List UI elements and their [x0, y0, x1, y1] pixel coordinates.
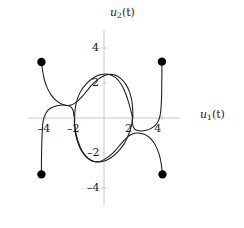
x-tick-label-3: 4: [154, 122, 161, 135]
curve-trajectory-lower-left: [41, 105, 74, 174]
x-tick-label-1: –2: [67, 122, 80, 135]
x-tick-label-2: 2: [125, 122, 132, 135]
curve-trajectory-upper-left: [41, 62, 132, 117]
initial-condition-lower-right-marker: [158, 170, 166, 178]
y-axis-label-arg: (t): [122, 6, 135, 19]
initial-condition-upper-left-marker: [37, 58, 45, 66]
axis-layer: [28, 31, 179, 206]
y-tick-label-2: –2: [87, 146, 100, 159]
y-tick-label-3: –4: [87, 181, 100, 194]
x-axis-label: u1(t): [200, 108, 225, 122]
initial-condition-lower-left-marker: [37, 170, 45, 178]
phase-portrait-figure: –4–22442–2–4 u2(t) u1(t): [0, 0, 244, 228]
y-tick-label-1: 2: [92, 76, 99, 89]
y-tick-label-0: 4: [92, 41, 99, 54]
x-tick-label-0: –4: [38, 122, 51, 135]
x-axis-label-arg: (t): [212, 108, 225, 121]
curve-trajectory-upper-right: [132, 62, 162, 131]
y-axis-label: u2(t): [110, 6, 135, 20]
initial-condition-upper-right-marker: [158, 57, 166, 65]
